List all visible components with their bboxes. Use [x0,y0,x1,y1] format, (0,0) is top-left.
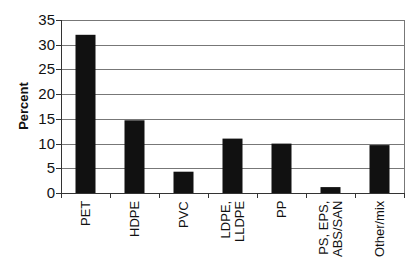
bar-pet [76,35,96,193]
bar-other-mix [370,145,390,193]
bar-pvc [174,172,194,193]
x-tick-label: PET [79,201,93,226]
x-tick-label: PS, EPS,ABS/SAN [317,201,345,257]
y-tick-label: 0 [25,185,55,200]
bar-ps-eps-abs-san [321,187,341,193]
y-tick-label: 5 [25,160,55,175]
x-tick-label: PP [275,201,289,218]
y-tick-label: 35 [25,12,55,27]
bar-hdpe [125,120,145,193]
y-tick-label: 15 [25,111,55,126]
plot-area [0,0,417,278]
bar-pp [272,144,292,193]
y-tick-label: 30 [25,37,55,52]
x-tick-label: PVC [177,201,191,228]
y-tick-label: 25 [25,61,55,76]
x-tick-label: HDPE [128,201,142,237]
x-tick-label: Other/mix [373,201,387,257]
x-tick-label: LDPE,LLDPE [219,201,247,242]
y-axis-ticks: 05101520253035 [24,0,55,278]
y-tick-label: 20 [25,86,55,101]
bar-ldpe-lldpe [223,139,243,193]
y-tick-label: 10 [25,136,55,151]
bar-chart: Percent 05101520253035 PETHDPEPVCLDPE,LL… [0,0,417,278]
